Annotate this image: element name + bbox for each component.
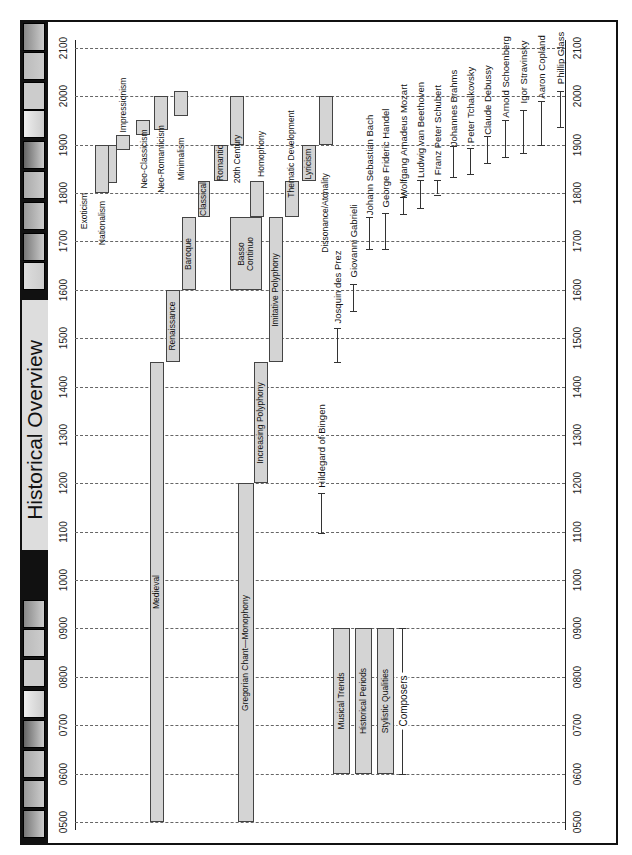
color-swatch <box>23 110 45 138</box>
color-swatch <box>23 23 45 51</box>
axis-tick-right: 1300 <box>572 424 583 446</box>
trend-label: Exoticism <box>80 193 89 229</box>
composer-span <box>470 148 471 174</box>
axis-tick-right: 1400 <box>572 375 583 397</box>
axis-tick-left: 1800 <box>58 182 69 204</box>
gridline <box>75 290 565 291</box>
axis-tick-left: 0700 <box>58 714 69 736</box>
color-swatch <box>23 202 45 230</box>
quality-label: Homophony <box>257 131 266 177</box>
composer-label: Johann Sebastian Bach <box>364 115 374 215</box>
quality-bar <box>319 96 333 144</box>
composer-cap <box>366 249 373 250</box>
composer-cap <box>557 127 564 128</box>
composer-span <box>505 120 506 157</box>
composer-span <box>437 180 438 195</box>
axis-tick-right: 1700 <box>572 230 583 252</box>
trend-bar <box>174 91 188 115</box>
period-label: 20th Century <box>233 135 242 184</box>
axis-tick-left: 1000 <box>58 569 69 591</box>
axis-tick-right: 0900 <box>572 617 583 639</box>
composer-cap <box>350 311 357 312</box>
legend-composer-cap <box>399 628 406 629</box>
legend-label: Stylistic Qualities <box>381 669 390 733</box>
composer-span <box>420 180 421 208</box>
axis-tick-left: 1100 <box>58 521 69 543</box>
legend-label: Composers <box>397 672 408 729</box>
color-swatch <box>23 690 45 718</box>
color-swatch <box>23 629 45 657</box>
composer-cap <box>538 101 545 102</box>
axis-tick-right: 0500 <box>572 811 583 833</box>
axis-tick-right: 0700 <box>572 714 583 736</box>
axis-tick-right: 1800 <box>572 182 583 204</box>
composer-cap <box>557 91 564 92</box>
gridline <box>75 338 565 339</box>
composer-cap <box>520 153 527 154</box>
composer-cap <box>417 208 424 209</box>
composer-cap <box>417 180 424 181</box>
trend-label: Minimalism <box>177 138 186 181</box>
composer-cap <box>334 362 341 363</box>
axis-tick-left: 2000 <box>58 85 69 107</box>
composer-span <box>321 493 322 532</box>
composer-label: Aaron Copland <box>536 36 546 99</box>
quality-label: Increasing Polyphony <box>256 382 265 463</box>
axis-tick-left: 1200 <box>58 472 69 494</box>
composer-span <box>523 110 524 153</box>
quality-label: Gregorian Chant—Monophony <box>241 595 250 711</box>
period-label: Romantic <box>216 145 225 181</box>
gridline <box>75 628 565 629</box>
axis-tick-right: 1900 <box>572 134 583 156</box>
composer-cap <box>434 195 441 196</box>
color-swatch <box>23 750 45 778</box>
composer-span <box>403 197 404 214</box>
composer-cap <box>450 177 457 178</box>
composer-cap <box>502 120 509 121</box>
color-swatch <box>23 233 45 261</box>
color-swatch <box>23 171 45 199</box>
composer-cap <box>350 284 357 285</box>
composer-label: Igor Stravinsky <box>518 40 528 103</box>
axis-tick-right: 1200 <box>572 472 583 494</box>
color-swatch <box>23 780 45 808</box>
composer-cap <box>334 328 341 329</box>
period-label: Classical <box>199 182 208 216</box>
gridline <box>75 580 565 581</box>
composer-span <box>337 328 338 362</box>
composer-span <box>560 91 561 126</box>
composer-label: Wolfgang Amadeus Mozart <box>398 84 408 198</box>
composer-label: Peter Tchaikovsky <box>465 67 475 143</box>
axis-tick-left: 1600 <box>58 279 69 301</box>
composer-label: Hildegard of Bingen <box>316 404 326 487</box>
composer-cap <box>318 493 325 494</box>
trend-label: Impressionism <box>119 78 128 133</box>
axis-tick-left: 0800 <box>58 666 69 688</box>
composer-span <box>369 217 370 248</box>
color-swatch <box>23 659 45 687</box>
gridline <box>75 725 565 726</box>
composer-cap <box>520 110 527 111</box>
color-swatch <box>23 141 45 169</box>
composer-cap <box>366 217 373 218</box>
composer-cap <box>484 136 491 137</box>
composer-label: Claude Debussy <box>482 65 492 135</box>
axis-tick-left: 0900 <box>58 617 69 639</box>
axis-tick-right: 0800 <box>572 666 583 688</box>
color-swatch <box>23 810 45 838</box>
composer-span <box>487 136 488 163</box>
composer-cap <box>434 180 441 181</box>
axis-tick-left: 1500 <box>58 327 69 349</box>
axis-tick-right: 2100 <box>572 37 583 59</box>
composer-label: Giovanni Gabrieli <box>348 204 358 277</box>
axis-tick-left: 1700 <box>58 230 69 252</box>
gridline <box>75 48 565 49</box>
page-title: Historical Overview <box>23 340 47 520</box>
composer-cap <box>502 157 509 158</box>
composer-label: George Frideric Handel <box>380 109 390 208</box>
composer-label: Josquin des Prez <box>332 251 342 324</box>
composer-label: Franz Peter Schubert <box>432 84 442 174</box>
axis-tick-right: 1000 <box>572 569 583 591</box>
axis-tick-left: 1400 <box>58 375 69 397</box>
quality-bar <box>250 181 264 217</box>
